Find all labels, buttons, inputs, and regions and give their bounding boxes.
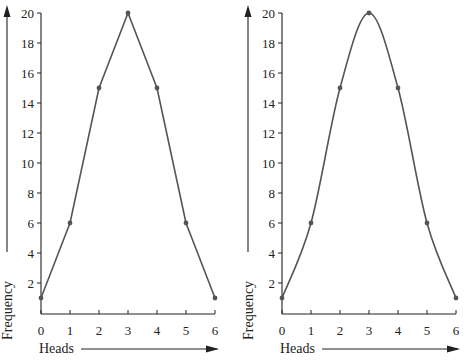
data-point	[184, 221, 189, 226]
data-point	[213, 296, 218, 301]
data-line	[282, 13, 456, 298]
y-tick-label: 14	[21, 96, 35, 111]
data-point	[396, 86, 401, 91]
y-tick-label: 20	[21, 6, 34, 21]
charts-canvas: 24681012141618200123456FrequencyHeads 24…	[0, 0, 464, 363]
y-tick-label: 18	[21, 36, 34, 51]
data-point	[155, 86, 160, 91]
x-tick-label: 1	[308, 323, 315, 338]
x-tick-label: 3	[366, 323, 373, 338]
x-tick-label: 3	[125, 323, 132, 338]
y-tick-label: 4	[28, 246, 35, 261]
data-point	[425, 221, 430, 226]
x-tick-label: 0	[38, 323, 45, 338]
y-tick-label: 18	[262, 36, 275, 51]
y-tick-label: 6	[269, 216, 276, 231]
y-tick-label: 10	[262, 156, 275, 171]
frequency-polygon-chart: 24681012141618200123456FrequencyHeads	[0, 5, 219, 356]
data-point	[367, 11, 372, 16]
data-point	[454, 296, 459, 301]
data-point	[39, 296, 44, 301]
frequency-curve-chart: 24681012141618200123456FrequencyHeads	[241, 5, 460, 356]
data-point	[280, 296, 285, 301]
y-tick-label: 2	[269, 276, 276, 291]
x-axis-title: Heads	[280, 341, 315, 356]
y-tick-label: 6	[28, 216, 35, 231]
x-tick-label: 5	[183, 323, 190, 338]
y-tick-label: 2	[28, 276, 35, 291]
x-tick-label: 5	[424, 323, 431, 338]
x-tick-label: 4	[395, 323, 402, 338]
y-tick-label: 20	[262, 6, 275, 21]
y-tick-label: 12	[262, 126, 275, 141]
y-tick-label: 16	[262, 66, 276, 81]
x-tick-label: 2	[337, 323, 344, 338]
x-tick-label: 6	[453, 323, 460, 338]
arrow-right-icon	[447, 346, 460, 353]
arrow-up-icon	[245, 5, 252, 17]
x-tick-label: 1	[67, 323, 74, 338]
y-tick-label: 8	[269, 186, 276, 201]
x-axis-title: Heads	[39, 341, 74, 356]
x-tick-label: 0	[279, 323, 286, 338]
data-point	[309, 221, 314, 226]
y-tick-label: 8	[28, 186, 35, 201]
y-axis-title: Frequency	[0, 281, 15, 340]
data-line	[41, 13, 215, 298]
data-point	[68, 221, 73, 226]
data-point	[126, 11, 131, 16]
data-point	[338, 86, 343, 91]
x-tick-label: 6	[212, 323, 219, 338]
y-axis-title: Frequency	[241, 281, 256, 340]
arrow-right-icon	[206, 346, 219, 353]
x-tick-label: 4	[154, 323, 161, 338]
y-tick-label: 4	[269, 246, 276, 261]
x-tick-label: 2	[96, 323, 103, 338]
y-tick-label: 12	[21, 126, 34, 141]
y-tick-label: 10	[21, 156, 34, 171]
y-tick-label: 14	[262, 96, 276, 111]
y-tick-label: 16	[21, 66, 35, 81]
arrow-up-icon	[4, 5, 11, 17]
data-point	[97, 86, 102, 91]
